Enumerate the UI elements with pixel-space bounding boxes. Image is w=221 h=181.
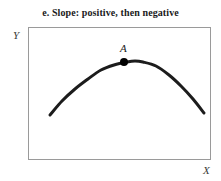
x-axis-label: X xyxy=(203,164,210,176)
point-a-marker xyxy=(120,58,128,66)
figure-panel: e. Slope: positive, then negative Y A X xyxy=(0,0,221,181)
point-a-label: A xyxy=(120,42,127,54)
slope-curve xyxy=(50,61,204,115)
curve-layer xyxy=(0,0,221,181)
